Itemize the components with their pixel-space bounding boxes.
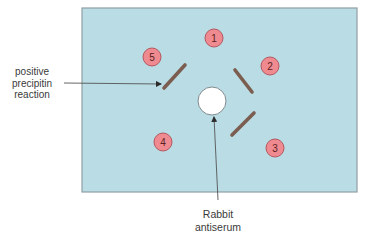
immunodiffusion-diagram: 12345 (0, 0, 370, 250)
well-number: 4 (160, 137, 166, 148)
well-number: 3 (272, 143, 278, 154)
label-line: reaction (0, 89, 64, 101)
antigen-well-2: 2 (261, 57, 279, 75)
label-line: antiserum (186, 221, 250, 234)
antigen-well-5: 5 (143, 48, 161, 66)
well-number: 1 (211, 33, 217, 44)
label-line: positive (0, 66, 64, 78)
center-well-rabbit-antiserum (198, 87, 226, 115)
label-line: Rabbit (186, 208, 250, 221)
antigen-well-3: 3 (266, 139, 284, 157)
label-line: precipitin (0, 78, 64, 90)
well-number: 5 (149, 52, 155, 63)
antigen-well-4: 4 (154, 133, 172, 151)
antigen-well-1: 1 (205, 29, 223, 47)
well-number: 2 (267, 61, 273, 72)
rabbit-antiserum-label: Rabbit antiserum (186, 208, 250, 234)
positive-precipitin-reaction-label: positive precipitin reaction (0, 66, 64, 101)
